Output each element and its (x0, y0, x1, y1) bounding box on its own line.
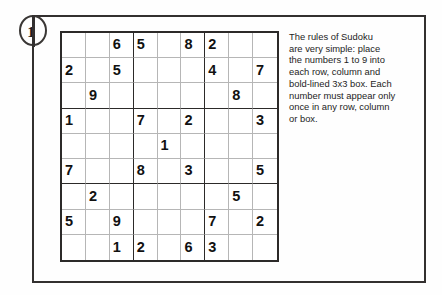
sudoku-cell[interactable]: 5 (134, 33, 158, 58)
sudoku-cell[interactable] (62, 235, 86, 260)
sudoku-cell[interactable]: 2 (205, 33, 229, 58)
sudoku-cell[interactable] (158, 184, 182, 209)
sudoku-cell[interactable] (134, 184, 158, 209)
sudoku-given-digit: 3 (205, 240, 216, 256)
sudoku-cell[interactable] (205, 109, 229, 134)
sudoku-given-digit: 1 (158, 138, 169, 154)
sudoku-cell[interactable]: 2 (86, 184, 110, 209)
sudoku-cell[interactable] (62, 33, 86, 58)
frame-left-edge-overlap (32, 15, 35, 47)
sudoku-cell[interactable]: 8 (229, 83, 253, 108)
sudoku-cell[interactable]: 2 (134, 235, 158, 260)
sudoku-cell[interactable]: 7 (205, 210, 229, 235)
sudoku-cell[interactable] (229, 210, 253, 235)
sudoku-cell[interactable] (229, 159, 253, 184)
sudoku-cell[interactable] (110, 184, 134, 209)
sudoku-cell[interactable]: 5 (62, 210, 86, 235)
sudoku-cell[interactable] (229, 58, 253, 83)
sudoku-cell[interactable]: 3 (181, 159, 205, 184)
sudoku-cell[interactable] (158, 83, 182, 108)
sudoku-cell[interactable]: 2 (253, 210, 277, 235)
sudoku-cell[interactable] (158, 58, 182, 83)
sudoku-cell[interactable] (253, 184, 277, 209)
rules-line: The rules of Sudoku (289, 31, 407, 43)
sudoku-cell[interactable]: 9 (86, 83, 110, 108)
sudoku-cell[interactable] (134, 83, 158, 108)
sudoku-page: 1 65822547981723178352559721263 The rule… (0, 0, 442, 295)
sudoku-cell[interactable] (205, 134, 229, 159)
sudoku-cell[interactable]: 7 (253, 58, 277, 83)
sudoku-cell[interactable] (205, 184, 229, 209)
sudoku-cell[interactable]: 1 (158, 134, 182, 159)
sudoku-cell[interactable] (253, 134, 277, 159)
sudoku-cell[interactable] (253, 83, 277, 108)
sudoku-cell[interactable]: 9 (110, 210, 134, 235)
sudoku-cell[interactable] (158, 210, 182, 235)
sudoku-cell[interactable] (62, 184, 86, 209)
sudoku-cell[interactable]: 5 (253, 159, 277, 184)
sudoku-cell[interactable] (134, 210, 158, 235)
sudoku-given-digit: 2 (62, 63, 73, 79)
sudoku-cell[interactable]: 3 (205, 235, 229, 260)
sudoku-cell[interactable] (158, 33, 182, 58)
sudoku-cell[interactable] (62, 134, 86, 159)
sudoku-given-digit: 2 (134, 240, 145, 256)
sudoku-cell[interactable]: 4 (205, 58, 229, 83)
sudoku-cell[interactable] (110, 159, 134, 184)
sudoku-given-digit: 5 (62, 214, 73, 230)
sudoku-cell[interactable]: 8 (181, 33, 205, 58)
sudoku-cell[interactable] (110, 109, 134, 134)
sudoku-given-digit: 5 (253, 163, 264, 179)
sudoku-cell[interactable] (86, 109, 110, 134)
sudoku-given-digit: 7 (205, 214, 216, 230)
sudoku-cell[interactable] (181, 134, 205, 159)
sudoku-cell[interactable] (158, 159, 182, 184)
sudoku-cell[interactable]: 2 (181, 109, 205, 134)
sudoku-given-digit: 2 (205, 37, 216, 53)
sudoku-cell[interactable]: 6 (181, 235, 205, 260)
sudoku-cell[interactable] (181, 210, 205, 235)
sudoku-cell[interactable]: 7 (62, 159, 86, 184)
sudoku-cell[interactable]: 8 (134, 159, 158, 184)
sudoku-cell[interactable] (86, 210, 110, 235)
sudoku-cell[interactable] (158, 109, 182, 134)
sudoku-cell[interactable]: 5 (229, 184, 253, 209)
sudoku-cell[interactable]: 5 (110, 58, 134, 83)
sudoku-cell[interactable] (229, 134, 253, 159)
sudoku-cell[interactable] (158, 235, 182, 260)
sudoku-cell[interactable] (110, 83, 134, 108)
sudoku-given-digit: 9 (86, 88, 97, 104)
rules-line: are very simple: place (289, 43, 407, 55)
sudoku-grid[interactable]: 65822547981723178352559721263 (60, 31, 279, 262)
sudoku-given-digit: 3 (253, 113, 264, 129)
sudoku-cell[interactable] (181, 184, 205, 209)
sudoku-cell[interactable]: 1 (62, 109, 86, 134)
sudoku-cell[interactable] (86, 235, 110, 260)
sudoku-cell[interactable] (86, 159, 110, 184)
sudoku-cell[interactable] (229, 235, 253, 260)
sudoku-cell[interactable] (229, 109, 253, 134)
sudoku-cell[interactable] (181, 58, 205, 83)
sudoku-cell[interactable] (253, 33, 277, 58)
sudoku-cell[interactable] (181, 83, 205, 108)
sudoku-cell[interactable] (86, 58, 110, 83)
sudoku-given-digit: 2 (253, 214, 264, 230)
sudoku-cell[interactable] (62, 83, 86, 108)
sudoku-cell[interactable] (134, 58, 158, 83)
sudoku-given-digit: 1 (110, 240, 121, 256)
sudoku-cell[interactable]: 1 (110, 235, 134, 260)
sudoku-given-digit: 7 (62, 163, 73, 179)
sudoku-cell[interactable] (86, 33, 110, 58)
sudoku-cell[interactable] (205, 83, 229, 108)
sudoku-cell[interactable] (134, 134, 158, 159)
sudoku-cell[interactable]: 2 (62, 58, 86, 83)
sudoku-cell[interactable] (86, 134, 110, 159)
sudoku-cell[interactable] (205, 159, 229, 184)
sudoku-cell[interactable]: 6 (110, 33, 134, 58)
sudoku-cell[interactable] (110, 134, 134, 159)
sudoku-cell[interactable]: 3 (253, 109, 277, 134)
sudoku-cell[interactable]: 7 (134, 109, 158, 134)
sudoku-cell[interactable] (229, 33, 253, 58)
sudoku-cell[interactable] (253, 235, 277, 260)
sudoku-given-digit: 3 (181, 163, 192, 179)
